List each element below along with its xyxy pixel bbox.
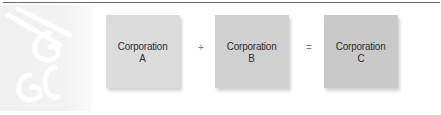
box-letter: C <box>358 52 365 64</box>
box-letter: A <box>140 52 146 64</box>
equals-operator: = <box>306 42 312 53</box>
box-title: Corporation <box>227 40 277 52</box>
example-watermark-panel <box>0 5 92 111</box>
top-rule <box>3 2 440 3</box>
box-title: Corporation <box>118 40 168 52</box>
box-letter: B <box>249 52 255 64</box>
corporation-b-box: Corporation B <box>215 15 289 88</box>
plus-operator: + <box>198 42 204 53</box>
corporation-a-box: Corporation A <box>106 15 180 88</box>
example-script-watermark-icon <box>0 5 92 111</box>
corporation-c-box: Corporation C <box>324 15 398 88</box>
box-title: Corporation <box>336 40 386 52</box>
